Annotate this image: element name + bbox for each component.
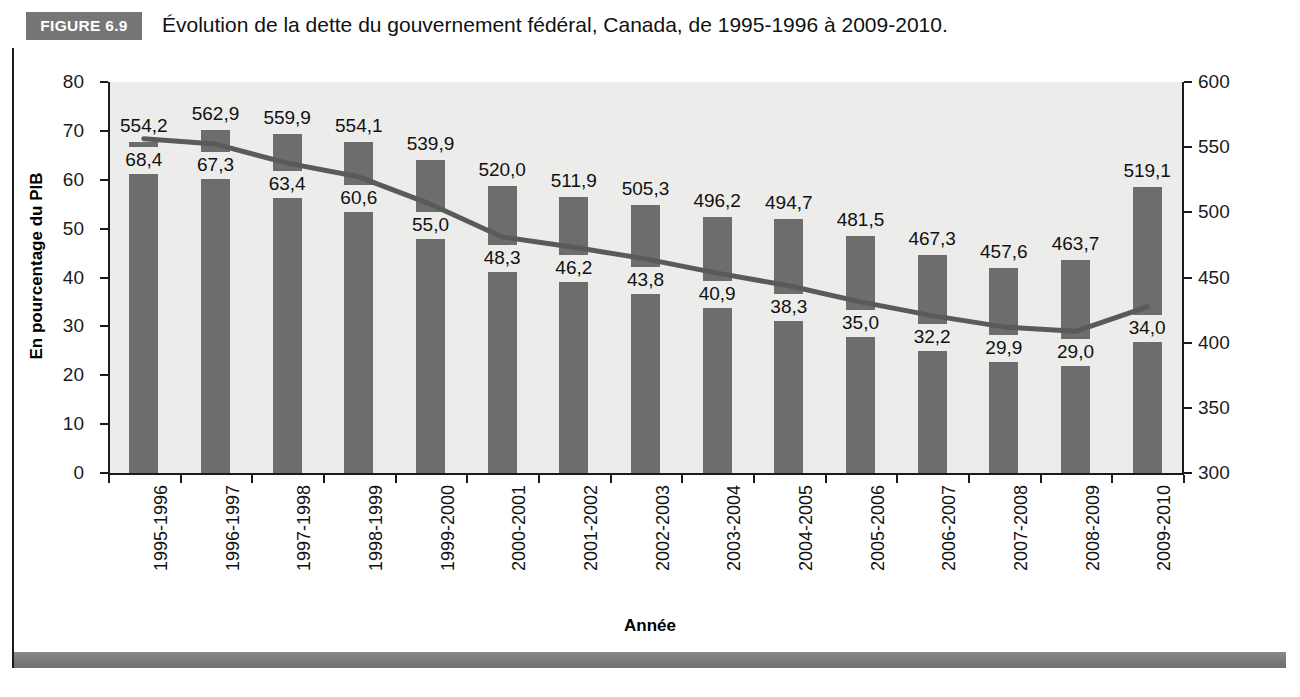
x-axis-tick [681, 475, 683, 483]
y-axis-left-tick-label: 80 [24, 72, 84, 91]
bar [488, 186, 517, 473]
line-value-label: 35,0 [821, 313, 901, 332]
bar-value-label: 481,5 [816, 210, 906, 229]
figure-root: FIGURE 6.9 Évolution de la dette du gouv… [0, 0, 1300, 697]
bar [416, 160, 445, 473]
y-axis-right-tick-label: 550 [1198, 137, 1258, 156]
y-axis-left-tick [100, 423, 108, 425]
bar-value-label: 539,9 [386, 134, 476, 153]
x-axis-tick [1040, 475, 1042, 483]
x-tick-label: 2008-2009 [1083, 485, 1104, 571]
x-tick-label: 1999-2000 [438, 485, 459, 571]
line-value-label: 34,0 [1107, 318, 1187, 337]
line-value-label: 40,9 [677, 284, 757, 303]
x-tick-label: 1995-1996 [151, 485, 172, 571]
x-tick-label: 2005-2006 [868, 485, 889, 571]
line-value-label: 55,0 [391, 215, 471, 234]
y-axis-left-title: En pourcentage du PIB [27, 101, 47, 431]
y-axis-left-tick [100, 472, 108, 474]
x-axis-tick [538, 475, 540, 483]
y-axis-right-tick-label: 300 [1198, 463, 1258, 482]
line-value-label: 46,2 [534, 258, 614, 277]
bar [1061, 260, 1090, 473]
line-value-label: 32,2 [892, 327, 972, 346]
y-axis-right-tick [1184, 81, 1192, 83]
y-axis-right-tick [1184, 342, 1192, 344]
bar [846, 236, 875, 473]
x-axis-tick [180, 475, 182, 483]
x-tick-label: 2004-2005 [796, 485, 817, 571]
bar-value-label: 494,7 [744, 193, 834, 212]
line-value-label: 43,8 [606, 270, 686, 289]
figure-bottom-band [14, 652, 1286, 668]
x-tick-label: 2009-2010 [1154, 485, 1175, 571]
bar-value-label: 554,1 [314, 116, 404, 135]
x-axis-tick [108, 475, 110, 483]
x-axis-title: Année [0, 616, 1300, 636]
x-axis-tick [610, 475, 612, 483]
bar [918, 255, 947, 473]
y-axis-right-tick [1184, 472, 1192, 474]
y-axis-left-line [108, 82, 110, 474]
line-value-label: 48,3 [462, 248, 542, 267]
x-tick-label: 1997-1998 [294, 485, 315, 571]
x-axis-tick [896, 475, 898, 483]
y-axis-right-tick [1184, 277, 1192, 279]
x-tick-label: 2000-2001 [509, 485, 530, 571]
x-axis-tick [395, 475, 397, 483]
y-axis-left-tick [100, 179, 108, 181]
y-axis-left-tick [100, 325, 108, 327]
line-value-label: 60,6 [319, 188, 399, 207]
x-axis-tick [825, 475, 827, 483]
y-axis-left-tick [100, 277, 108, 279]
y-axis-left-tick [100, 374, 108, 376]
line-value-label: 38,3 [749, 297, 829, 316]
bar [774, 219, 803, 473]
y-axis-right-tick-label: 450 [1198, 268, 1258, 287]
y-axis-right-tick [1184, 146, 1192, 148]
y-axis-right-tick [1184, 211, 1192, 213]
line-value-label: 68,4 [104, 150, 184, 169]
line-value-label: 63,4 [247, 174, 327, 193]
x-tick-label: 1998-1999 [366, 485, 387, 571]
y-axis-right-tick-label: 400 [1198, 333, 1258, 352]
line-value-label: 67,3 [176, 155, 256, 174]
x-axis-tick [1183, 475, 1185, 483]
y-axis-left-tick-label: 0 [24, 463, 84, 482]
x-axis-tick [251, 475, 253, 483]
bar [703, 217, 732, 473]
y-axis-right-tick-label: 350 [1198, 398, 1258, 417]
x-axis-tick [753, 475, 755, 483]
y-axis-right-tick-label: 500 [1198, 202, 1258, 221]
line-value-label: 29,0 [1036, 342, 1116, 361]
x-tick-label: 2001-2002 [581, 485, 602, 571]
bar-value-label: 463,7 [1031, 234, 1121, 253]
x-axis-line [108, 473, 1184, 475]
bar-value-label: 519,1 [1102, 161, 1192, 180]
y-axis-right-tick [1184, 407, 1192, 409]
x-tick-label: 2002-2003 [653, 485, 674, 571]
y-axis-right-tick-label: 600 [1198, 72, 1258, 91]
bar [631, 205, 660, 473]
x-axis-tick [1111, 475, 1113, 483]
bar [201, 130, 230, 473]
x-tick-label: 1996-1997 [223, 485, 244, 571]
x-axis-tick [466, 475, 468, 483]
x-tick-label: 2007-2008 [1011, 485, 1032, 571]
y-axis-left-tick [100, 228, 108, 230]
bar [559, 197, 588, 473]
x-axis-tick [323, 475, 325, 483]
x-tick-label: 2003-2004 [724, 485, 745, 571]
y-axis-left-tick [100, 81, 108, 83]
bar [129, 142, 158, 473]
x-axis-tick [968, 475, 970, 483]
chart-plot: 01020304050607080 300350400450500550600 … [0, 0, 1300, 697]
line-value-label: 29,9 [964, 338, 1044, 357]
bar [989, 268, 1018, 473]
x-tick-label: 2006-2007 [939, 485, 960, 571]
